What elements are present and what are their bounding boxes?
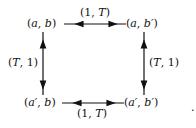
- node-bottom-right: (a′, b′): [124, 97, 158, 109]
- arrowhead-up-icon: [41, 41, 46, 48]
- arrowhead-right-icon: [107, 101, 114, 106]
- arrowhead-up-icon: [142, 41, 147, 48]
- arrowhead-down-icon: [41, 81, 46, 88]
- edge-label-left: (T, 1): [8, 57, 38, 69]
- arrowhead-right-icon: [109, 22, 116, 27]
- arrowhead-left-icon: [76, 22, 83, 27]
- node-bottom-left: (a′, b): [24, 97, 56, 109]
- edge-label-right: (T, 1): [149, 57, 179, 69]
- trailing-period: .: [191, 102, 195, 114]
- edge-label-bottom: (1, T): [77, 108, 107, 120]
- arrowhead-down-icon: [142, 81, 147, 88]
- arrowhead-left-icon: [74, 101, 81, 106]
- node-top-right: (a, b′): [126, 18, 158, 30]
- node-top-left: (a, b): [27, 18, 56, 30]
- edge-label-top: (1, T): [80, 7, 110, 19]
